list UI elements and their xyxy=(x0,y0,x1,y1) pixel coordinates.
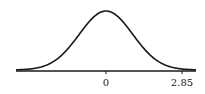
tick-label-0: 0 xyxy=(103,77,109,88)
normal-curve-chart: 0 2.85 xyxy=(0,0,205,94)
tick-label-2.85: 2.85 xyxy=(171,77,193,88)
bell-curve xyxy=(16,11,196,70)
